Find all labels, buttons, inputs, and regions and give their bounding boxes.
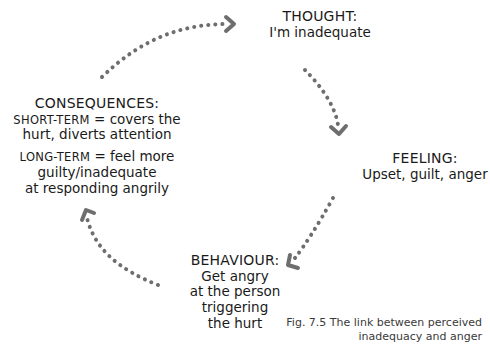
figure-caption: Fig. 7.5 The link between perceived inad… <box>286 316 482 345</box>
short-term-line-1: SHORT-TERM = covers the <box>2 112 192 128</box>
node-thought: THOUGHT: I'm inadequate <box>245 8 395 40</box>
feeling-title: FEELING: <box>360 150 490 167</box>
long-term-label: LONG-TERM <box>20 150 91 164</box>
caption-line-2: inadequacy and anger <box>286 330 482 344</box>
node-feeling: FEELING: Upset, guilt, anger <box>360 150 490 182</box>
feeling-text: Upset, guilt, anger <box>360 167 490 183</box>
behaviour-text-line: at the person <box>180 284 290 300</box>
long-term-line-2: guilty/inadequate <box>2 165 192 181</box>
node-consequences: CONSEQUENCES: SHORT-TERM = covers the hu… <box>2 95 192 197</box>
behaviour-text-line: the hurt <box>180 316 290 332</box>
behaviour-title: BEHAVIOUR: <box>180 252 290 269</box>
long-term-text: = feel more <box>90 148 174 164</box>
behaviour-text-line: triggering <box>180 300 290 316</box>
short-term-label: SHORT-TERM <box>13 113 89 127</box>
short-term-line-2: hurt, diverts attention <box>2 127 192 143</box>
behaviour-text-line: Get angry <box>180 269 290 285</box>
consequences-title: CONSEQUENCES: <box>2 95 192 112</box>
arrow-behaviour-to-consequences <box>87 218 158 285</box>
arrowhead-thought-icon <box>226 17 234 31</box>
short-term-text: = covers the <box>90 111 181 127</box>
thought-text: I'm inadequate <box>245 25 395 41</box>
caption-line-1: Fig. 7.5 The link between perceived <box>286 316 482 330</box>
long-term-line-1: LONG-TERM = feel more <box>2 149 192 165</box>
arrow-consequences-to-thought <box>102 24 228 77</box>
node-behaviour: BEHAVIOUR: Get angry at the person trigg… <box>180 252 290 332</box>
arrow-thought-to-feeling <box>305 70 338 125</box>
arrow-feeling-to-behaviour <box>295 198 333 258</box>
arrowhead-feeling-icon <box>331 126 346 134</box>
thought-title: THOUGHT: <box>245 8 395 25</box>
long-term-line-3: at responding angrily <box>2 181 192 197</box>
